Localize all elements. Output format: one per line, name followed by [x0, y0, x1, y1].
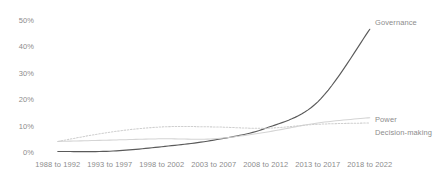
series-line-power: [58, 118, 370, 142]
series-label-power: Power: [375, 115, 397, 124]
x-tick-label-6: 2018 to 2022: [336, 160, 404, 169]
series-label-decision-making: Decision-making: [375, 128, 432, 137]
plot-area: [0, 0, 433, 180]
line-chart: 50% 40% 30% 20% 10% 0% Governance Power …: [0, 0, 433, 180]
series-label-governance: Governance: [375, 18, 417, 27]
series-line-governance: [58, 29, 370, 151]
